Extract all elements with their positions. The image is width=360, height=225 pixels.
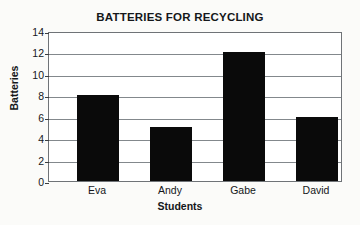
y-axis-tick-label: 10	[18, 69, 44, 81]
x-axis-tick-label: Eva	[66, 184, 128, 196]
bar-chart: BATTERIES FOR RECYCLING Batteries 024681…	[0, 0, 360, 225]
y-axis-tick-mark	[45, 54, 49, 55]
y-axis-tick-mark	[45, 76, 49, 77]
y-axis-tick-label: 14	[18, 26, 44, 38]
y-axis-tick-label: 6	[18, 112, 44, 124]
bar-eva	[77, 95, 119, 181]
x-axis-tick-label: Gabe	[212, 184, 274, 196]
x-axis-tick-label: Andy	[139, 184, 201, 196]
x-axis-tick-labels: EvaAndyGabeDavid	[48, 184, 342, 200]
y-axis-tick-label: 4	[18, 133, 44, 145]
plot-area	[48, 32, 342, 182]
chart-title: BATTERIES FOR RECYCLING	[0, 11, 360, 23]
y-axis-tick-mark	[45, 33, 49, 34]
y-axis-tick-label: 8	[18, 90, 44, 102]
x-axis-tick-label: David	[285, 184, 347, 196]
y-axis-tick-label: 0	[18, 176, 44, 188]
y-axis-tick-label: 2	[18, 155, 44, 167]
y-axis-tick-mark	[45, 97, 49, 98]
bar-gabe	[223, 52, 265, 181]
bar-david	[296, 117, 338, 181]
y-axis-tick-mark	[45, 119, 49, 120]
y-axis-tick-label: 12	[18, 47, 44, 59]
y-axis-tick-mark	[45, 140, 49, 141]
gridline	[49, 76, 341, 77]
y-axis-tick-mark	[45, 162, 49, 163]
x-axis-title: Students	[0, 200, 360, 212]
bar-andy	[150, 127, 192, 181]
gridline	[49, 54, 341, 55]
y-axis-tick-labels: 02468101214	[14, 32, 44, 182]
